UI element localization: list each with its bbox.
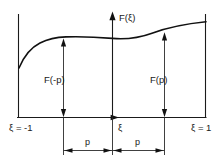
left-ordinate-top-arrowhead <box>61 38 66 46</box>
figure-container: F(ξ) ξ ξ = -1 ξ = 1 F(-p) F(p) p p <box>0 0 223 164</box>
left-dimension-label: p <box>85 137 90 147</box>
right-dimension-label: p <box>135 137 140 147</box>
left-ordinate-bottom-arrowhead <box>61 109 66 117</box>
left-ordinate-label: F(-p) <box>44 74 65 85</box>
left-bound-label: ξ = -1 <box>9 122 33 133</box>
right-ordinate-top-arrowhead <box>162 32 167 40</box>
f-axis-arrowhead <box>109 12 115 21</box>
quadrature-diagram: F(ξ) ξ ξ = -1 ξ = 1 F(-p) F(p) p p <box>0 0 223 164</box>
xi-axis-arrowhead <box>111 115 119 120</box>
left-dimension-arrow-start <box>65 148 73 153</box>
left-dimension-arrow-end <box>104 148 112 153</box>
right-ordinate-label: F(p) <box>150 74 167 85</box>
right-ordinate-bottom-arrowhead <box>162 109 167 117</box>
vertical-axis-label: F(ξ) <box>119 12 135 23</box>
right-dimension-arrow-end <box>156 148 164 153</box>
right-bound-label: ξ = 1 <box>191 122 211 133</box>
horizontal-axis-label: ξ <box>118 122 123 133</box>
right-dimension-arrow-start <box>114 148 122 153</box>
